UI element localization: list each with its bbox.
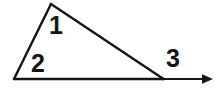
extended-ray: [164, 74, 214, 84]
angle-label-1: 1: [49, 13, 63, 38]
angle-label-2: 2: [31, 51, 45, 76]
hypotenuse-segment: [51, 4, 164, 79]
geometry-figure: 1 2 3: [0, 0, 215, 97]
angle-label-3: 3: [166, 46, 180, 71]
ray-arrowhead-icon: [202, 74, 213, 84]
